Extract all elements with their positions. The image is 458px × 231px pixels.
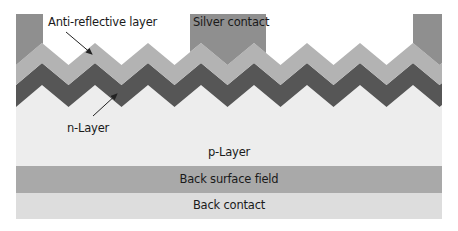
solar-cell-diagram: Anti-reflective layer Silver contact n-L… bbox=[0, 0, 458, 231]
silver-contact-label: Silver contact bbox=[193, 17, 269, 29]
back-surface-field-label: Back surface field bbox=[180, 174, 279, 186]
n-layer-label: n-Layer bbox=[67, 123, 109, 135]
p-layer-label: p-Layer bbox=[208, 147, 250, 159]
anti-reflective-arrow bbox=[66, 32, 92, 54]
anti-reflective-layer-label: Anti-reflective layer bbox=[48, 17, 157, 29]
back-contact-label: Back contact bbox=[193, 200, 265, 212]
